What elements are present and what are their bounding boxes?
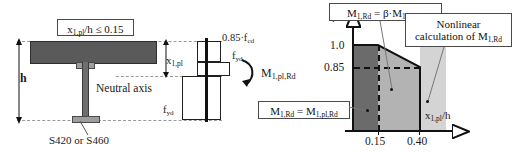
stress-block-axis	[205, 38, 208, 122]
constraint-box: x1,pl/h ≤ 0.15	[57, 19, 134, 36]
concrete-slab	[30, 41, 157, 64]
x-axis-label: x1,pl/h	[425, 110, 450, 122]
callout-beta-anchor-dot	[390, 88, 393, 91]
steel-grade-label: S420 or S460	[49, 135, 109, 146]
steel-tension-stress-block	[182, 76, 221, 120]
beta-reduction-chart: β x1,pl/h 1.0 0.85 0.15 0.40 M1,Rd = β·M…	[262, 0, 514, 153]
concrete-compression-stress-block	[197, 41, 221, 62]
callout-nonlinear-leader	[422, 47, 446, 103]
callout-nonlinear-line2-wrap: calculation of M1,Rd	[406, 30, 511, 44]
callout-nonlinear-anchor-dot	[426, 100, 429, 103]
steel-compression-stress-block	[197, 62, 230, 76]
callout-plastic-rhs-sub: 1,pl,Rd	[316, 110, 338, 119]
x-tick-label-040: 0.40	[407, 136, 427, 148]
x-040-boundary	[419, 67, 421, 131]
callout-plastic-anchor-dot	[366, 109, 369, 112]
y-tick-label-1: 1.0	[330, 40, 344, 52]
callout-beta-lhs: M	[347, 7, 357, 19]
callout-plastic-moment: M1,Rd = M1,pl,Rd	[258, 101, 350, 119]
callout-nonlinear-line2-sub: 1,Rd	[488, 35, 502, 44]
neutral-axis-label: Neutral axis	[96, 83, 152, 95]
concrete-stress-label: 0.85·fcd	[222, 33, 254, 45]
steel-stress-label-bottom: fyd	[163, 105, 174, 117]
callout-plastic-lhs-sub: 1,Rd	[280, 110, 294, 119]
callout-beta-lhs-sub: 1,Rd	[357, 12, 371, 21]
concrete-stress-sub: cd	[247, 37, 254, 45]
callout-nonlinear-line2: calculation of M	[415, 30, 488, 42]
steel-web	[82, 62, 89, 118]
x-axis-label-sub: 1,pl	[431, 114, 442, 123]
constraint-rest: /h ≤ 0.15	[84, 23, 123, 35]
bottom-reference-line	[17, 120, 222, 121]
callout-plastic-eq: = M	[294, 105, 315, 117]
x-axis-arrowhead-icon	[452, 124, 470, 139]
height-label: h	[20, 72, 27, 84]
figure-root: x1,pl/h ≤ 0.15 h x1,pl	[0, 0, 514, 153]
x-tick-label-015: 0.15	[365, 136, 385, 148]
x-axis-label-rest: /h	[442, 109, 451, 121]
callout-nonlinear: Nonlinear calculation of M1,Rd	[405, 13, 512, 47]
composite-beam-diagram: x1,pl/h ≤ 0.15 h x1,pl	[0, 0, 262, 153]
y-axis	[352, 24, 354, 131]
callout-nonlinear-line1: Nonlinear	[406, 18, 511, 30]
y-tick-label-085: 0.85	[324, 62, 344, 74]
plastic-depth-sub: 1,pl	[172, 59, 183, 68]
callout-plastic-lhs: M	[270, 105, 280, 117]
concrete-stress-base: 0.85·f	[222, 32, 247, 43]
constraint-sub: 1,pl	[73, 27, 84, 36]
steel-stress-bottom-sub: yd	[167, 109, 174, 117]
callout-beta-leader	[366, 21, 394, 91]
x-axis	[345, 130, 454, 132]
plastic-depth-label: x1,pl	[166, 55, 183, 67]
moment-arrow-icon	[238, 58, 260, 88]
callout-beta-eq: = β·M	[371, 7, 402, 19]
